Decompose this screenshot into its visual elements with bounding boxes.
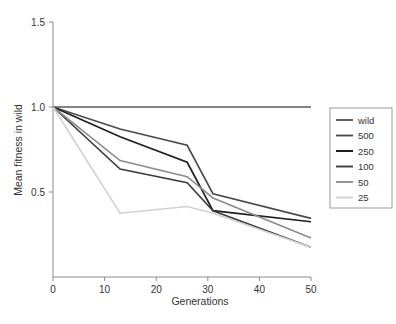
x-tick-label: 20 — [151, 284, 163, 295]
y-tick-label: 1.0 — [31, 102, 45, 113]
legend-label-250: 250 — [358, 146, 374, 157]
legend-label-25: 25 — [358, 192, 369, 203]
x-tick-label: 10 — [99, 284, 111, 295]
x-tick-label: 0 — [50, 284, 56, 295]
y-tick-label: 1.5 — [31, 17, 45, 28]
x-tick-label: 40 — [254, 284, 266, 295]
y-axis-title: Mean fitness in wild — [12, 104, 24, 196]
legend-label-wild: wild — [357, 115, 374, 126]
legend: wild5002501005025 — [330, 108, 392, 208]
x-tick-label: 30 — [202, 284, 214, 295]
y-tick-label: 0.5 — [31, 187, 45, 198]
x-tick-label: 50 — [305, 284, 317, 295]
legend-label-100: 100 — [358, 161, 374, 172]
line-chart-figure: 0.51.01.5 01020304050 Generations Mean f… — [0, 0, 396, 324]
x-axis-title: Generations — [171, 295, 228, 307]
legend-label-500: 500 — [358, 130, 374, 141]
legend-label-50: 50 — [358, 177, 369, 188]
